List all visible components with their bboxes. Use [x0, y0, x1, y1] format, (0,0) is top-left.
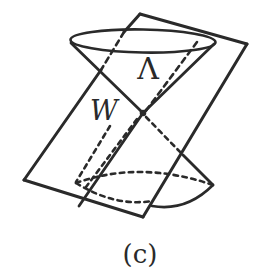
lower-cone-right-side: [183, 155, 213, 185]
lower-cone: [76, 113, 213, 207]
apex-label: W: [90, 95, 120, 126]
upper-cone-label: Λ: [136, 51, 159, 86]
cone-plane-diagram: Λ W (c): [0, 0, 261, 279]
cone-plane-figure: Λ W (c): [0, 0, 261, 279]
lower-cone-right-side-hidden: [146, 117, 183, 155]
upper-cone-rim: [70, 28, 215, 54]
lower-cone-hidden-edge: [76, 126, 110, 182]
figure-caption: (c): [123, 239, 158, 269]
